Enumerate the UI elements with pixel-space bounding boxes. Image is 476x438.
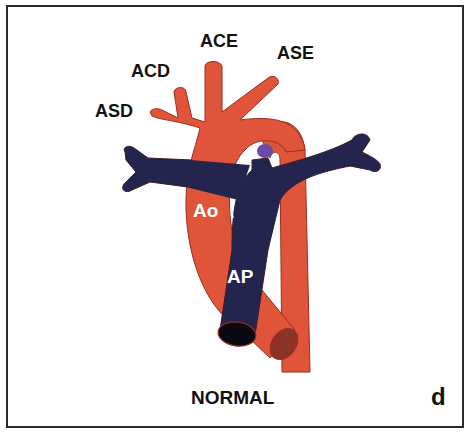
label-acd: ACD: [131, 62, 170, 80]
caption-normal: NORMAL: [191, 388, 274, 407]
label-ap: AP: [227, 267, 253, 286]
white-gap: [231, 205, 233, 218]
heart-vessels-diagram: [0, 0, 476, 438]
label-ao: Ao: [193, 201, 218, 220]
ductus-arteriosus: [257, 144, 273, 158]
panel-letter: d: [431, 385, 446, 409]
label-ase: ASE: [277, 44, 314, 62]
label-ace: ACE: [200, 32, 238, 50]
label-asd: ASD: [95, 102, 133, 120]
left-pulmonary-artery: [123, 146, 195, 191]
